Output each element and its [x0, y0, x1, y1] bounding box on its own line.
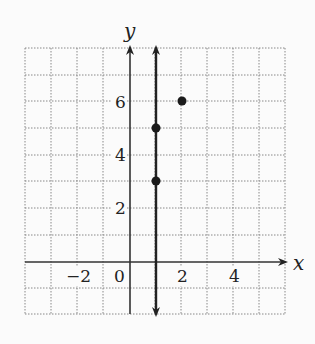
point-2-6 — [178, 97, 187, 106]
x-tick-neg2: −2 — [66, 266, 91, 286]
y-tick-6: 6 — [115, 92, 126, 112]
x-axis-label: x — [293, 251, 304, 275]
x-tick-0: 0 — [114, 266, 125, 286]
coordinate-plane: 6 4 2 −2 0 2 4 y x — [0, 0, 315, 344]
x-tick-2: 2 — [177, 266, 188, 286]
y-axis-label: y — [123, 19, 136, 43]
point-1-5 — [152, 124, 161, 133]
y-tick-4: 4 — [115, 145, 126, 165]
point-1-3 — [152, 177, 161, 186]
x-tick-4: 4 — [229, 266, 240, 286]
y-tick-2: 2 — [115, 198, 126, 218]
